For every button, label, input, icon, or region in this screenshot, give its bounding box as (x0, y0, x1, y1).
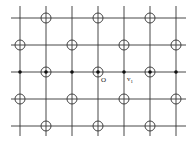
point-labels: O v1 (101, 75, 134, 84)
filled-dot-icon (18, 70, 22, 74)
filled-dot-icon (44, 70, 48, 74)
filled-dot-icon (174, 70, 178, 74)
filled-dot-icon (96, 70, 100, 74)
filled-dot-icon (70, 70, 74, 74)
lattice-diagram: O v1 (0, 0, 194, 142)
label-origin: O (101, 76, 106, 84)
filled-dot-icon (122, 70, 126, 74)
filled-dot-icon (148, 70, 152, 74)
label-v1: v1 (127, 75, 134, 84)
